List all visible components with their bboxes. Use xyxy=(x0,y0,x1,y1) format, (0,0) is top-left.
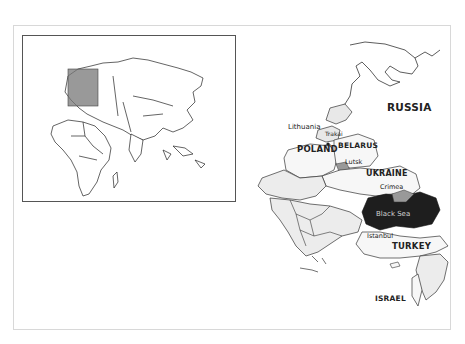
label-turkey: TURKEY xyxy=(392,242,431,251)
label-black-sea: Black Sea xyxy=(376,211,410,218)
greece-islands xyxy=(300,256,326,272)
russia-north-coast xyxy=(340,42,418,108)
label-ukraine: UKRAINE xyxy=(366,170,408,178)
label-trakai: Trakai xyxy=(325,131,343,137)
figure-caption xyxy=(140,333,325,337)
label-israel: ISRAEL xyxy=(375,295,406,303)
baltic-states xyxy=(326,104,352,124)
russia-ne-coast xyxy=(415,50,440,58)
label-belarus: BELARUS xyxy=(338,142,378,150)
label-lutsk: Lutsk xyxy=(345,159,362,166)
label-lithuania: Lithuania xyxy=(288,124,320,131)
balkans xyxy=(270,198,362,256)
label-crimea: Crimea xyxy=(380,184,403,191)
label-istanbul: Istanbul xyxy=(367,233,393,240)
label-poland: POLAND xyxy=(297,145,338,154)
cyprus xyxy=(390,262,400,268)
label-russia: RUSSIA xyxy=(387,102,432,113)
